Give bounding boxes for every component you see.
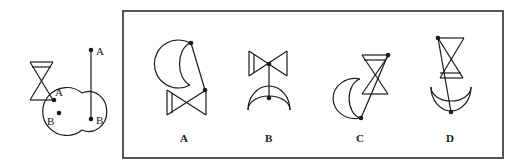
given-hourglass: A (30, 62, 63, 102)
option-d-label: D (446, 132, 454, 144)
option-a-label: A (180, 132, 188, 144)
puzzle-figure: A B A B A (0, 0, 529, 166)
option-b[interactable]: B (248, 51, 290, 144)
segment-top-label: A (96, 45, 104, 57)
point-a-dot (52, 98, 57, 103)
option-c[interactable]: C (333, 53, 390, 144)
point-b-dot (57, 111, 62, 116)
given-segment: A B (89, 45, 104, 126)
option-d[interactable]: D (431, 36, 471, 144)
given-moon: B (43, 88, 107, 136)
option-b-label: B (265, 132, 273, 144)
option-c-label: C (356, 132, 364, 144)
point-b-label: B (47, 115, 54, 127)
segment-bottom-label: B (96, 114, 103, 126)
option-a[interactable]: A (154, 40, 207, 144)
